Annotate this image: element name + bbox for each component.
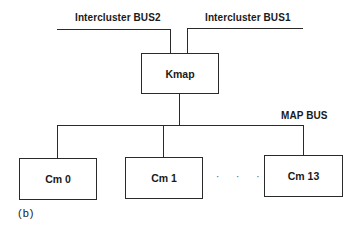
cm1-connector (163, 125, 164, 157)
cm13-box: Cm 13 (264, 155, 343, 197)
kmap-mapbus-connector (179, 94, 180, 125)
figure-caption: (b) (18, 207, 34, 219)
kmap-label: Kmap (165, 68, 194, 80)
cm13-connector (303, 125, 304, 155)
intercluster-bus2-label: Intercluster BUS2 (75, 12, 161, 23)
map-bus-line (57, 125, 304, 126)
map-bus-label: MAP BUS (281, 110, 328, 121)
cm1-label: Cm 1 (151, 172, 177, 184)
bus2-kmap-connector (170, 29, 171, 53)
intercluster-bus1-label: Intercluster BUS1 (205, 12, 291, 23)
cm1-box: Cm 1 (125, 157, 203, 199)
bus1-kmap-connector (187, 28, 188, 53)
intercluster-bus1-line (187, 28, 303, 29)
kmap-box: Kmap (141, 53, 219, 94)
intercluster-bus2-line (57, 29, 171, 30)
cm0-box: Cm 0 (19, 158, 97, 200)
cm0-connector (57, 125, 58, 158)
cm13-label: Cm 13 (288, 170, 320, 182)
cm0-label: Cm 0 (45, 173, 71, 185)
ellipsis: · · · (216, 171, 267, 182)
